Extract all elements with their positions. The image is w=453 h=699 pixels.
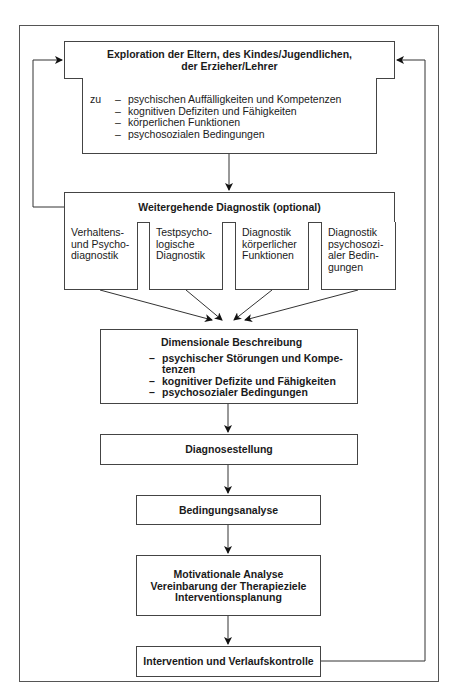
subbox-line: Funktionen (242, 250, 302, 262)
condition-analysis-title: Bedingungsanalyse (179, 504, 278, 516)
intervention-box: Intervention und Verlaufskontrolle (136, 646, 321, 677)
subbox-line: gungen (328, 262, 389, 274)
subbox-line: aler Bedin- (328, 250, 389, 262)
subbox-behavioral-diagnostics: Verhaltens- und Psycho- diagnostik (64, 222, 138, 290)
subbox-line: Diagnostik (156, 250, 216, 262)
motivational-analysis-box: Motivationale Analyse Vereinbarung der T… (136, 555, 321, 616)
motivational-line3: Interventionsplanung (137, 592, 320, 604)
exploration-topic: psychischen Auffälligkeiten und Kompeten… (115, 94, 341, 106)
diagnosis-box: Diagnosestellung (100, 434, 358, 465)
motivational-line1: Motivationale Analyse (137, 569, 320, 581)
dimensional-description-box: Dimensionale Beschreibung psychischer St… (100, 329, 358, 404)
dimensional-item: psychosozialer Bedingungen (149, 387, 357, 399)
diagnosis-title: Diagnosestellung (185, 443, 273, 455)
subbox-line: Diagnostik (328, 227, 389, 239)
intervention-title: Intervention und Verlaufskontrolle (143, 655, 313, 667)
dimensional-title: Dimensionale Beschreibung (149, 337, 357, 349)
further-diagnostics-title: Weitergehende Diagnostik (optional) (138, 201, 320, 213)
further-diagnostics-box: Weitergehende Diagnostik (optional) (64, 192, 395, 223)
subbox-test-psychological: Testpsycho- logische Diagnostik (149, 222, 223, 290)
exploration-title-line1: Exploration der Eltern, des Kindes/Jugen… (65, 49, 394, 61)
subbox-line: diagnostik (71, 250, 131, 262)
exploration-title-line2: der Erzieher/Lehrer (65, 61, 394, 73)
dimensional-item: psychischer Störungen und Kompe-tenzen (149, 353, 357, 376)
dimensional-list: psychischer Störungen und Kompe-tenzen k… (149, 353, 357, 399)
exploration-topics-box: zu psychischen Auffälligkeiten und Kompe… (82, 78, 377, 154)
subbox-line: Testpsycho- (156, 227, 216, 239)
subbox-line: Verhaltens- (71, 227, 131, 239)
subbox-line: Diagnostik (242, 227, 302, 239)
exploration-prefix: zu (90, 94, 115, 140)
subbox-physical-functions: Diagnostik körperlicher Funktionen (235, 222, 309, 290)
subbox-psychosocial-conditions: Diagnostik psychosozi- aler Bedin- gunge… (321, 222, 396, 290)
condition-analysis-box: Bedingungsanalyse (136, 495, 321, 525)
exploration-topics-list: psychischen Auffälligkeiten und Kompeten… (115, 94, 341, 140)
exploration-topic: körperlichen Funktionen (115, 117, 341, 129)
exploration-topic: psychosozialen Bedingungen (115, 129, 341, 141)
exploration-box: Exploration der Eltern, des Kindes/Jugen… (64, 41, 395, 79)
